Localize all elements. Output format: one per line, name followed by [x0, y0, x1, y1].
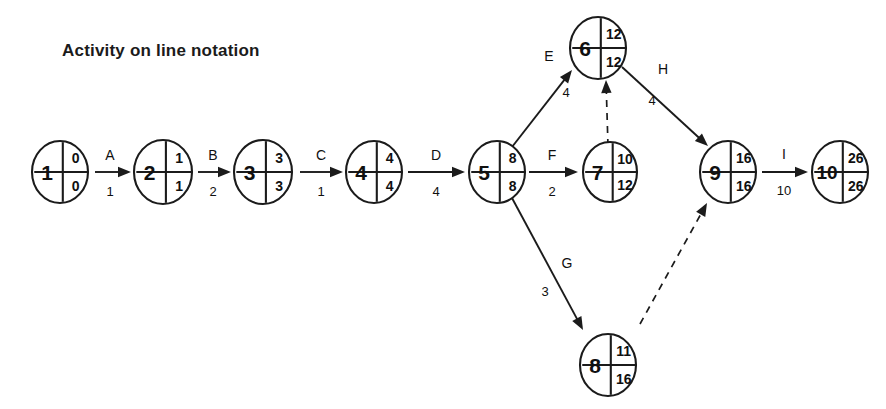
event-node-10[interactable]: 102626: [812, 141, 868, 203]
event-node-7[interactable]: 71012: [583, 142, 637, 202]
arrow-head-icon: [601, 80, 611, 93]
node-latest-event-time: 3: [275, 178, 283, 194]
arrow-head-icon: [795, 167, 808, 177]
event-node-1[interactable]: 100: [32, 141, 88, 203]
activity-arrow-H: H4: [622, 61, 708, 146]
activity-duration: 3: [541, 284, 548, 299]
node-event-number: 1: [41, 161, 53, 184]
activity-duration: 1: [106, 184, 113, 199]
event-node-8[interactable]: 81116: [580, 334, 636, 396]
node-earliest-event-time: 1: [175, 150, 183, 166]
node-latest-event-time: 16: [736, 178, 752, 194]
activity-label: D: [431, 147, 441, 163]
activity-duration: 4: [648, 93, 655, 108]
diagram-canvas: Activity on line notation A1B2C1D4E4F2G3…: [0, 0, 886, 409]
node-latest-event-time: 0: [72, 178, 80, 194]
node-latest-event-time: 16: [616, 371, 632, 387]
node-earliest-event-time: 26: [848, 150, 864, 166]
arrow-head-icon: [330, 167, 343, 177]
activity-arrow-C: C1: [300, 147, 343, 199]
activity-label: A: [105, 147, 115, 163]
dummy-activity-7-6: [601, 80, 611, 146]
arrow-head-icon: [572, 316, 583, 330]
event-node-9[interactable]: 91616: [700, 141, 756, 203]
node-earliest-event-time: 3: [275, 150, 283, 166]
arrow-shaft: [640, 213, 701, 324]
node-event-number: 7: [592, 161, 604, 184]
activity-arrow-B: B2: [198, 147, 231, 199]
node-earliest-event-time: 4: [386, 150, 394, 166]
activity-duration: 4: [562, 85, 569, 100]
arrow-shaft: [622, 67, 700, 138]
node-latest-event-time: 4: [386, 178, 394, 194]
activity-arrow-I: I10: [762, 146, 808, 198]
arrow-shaft: [606, 91, 608, 146]
activity-label: C: [316, 147, 326, 163]
node-earliest-event-time: 8: [509, 150, 517, 166]
node-event-number: 5: [478, 161, 490, 184]
arrow-head-icon: [696, 203, 707, 217]
activity-duration: 10: [777, 183, 791, 198]
activity-arrow-G: G3: [512, 198, 583, 330]
node-event-number: 9: [709, 161, 721, 184]
node-event-number: 4: [355, 161, 367, 184]
node-event-number: 2: [144, 161, 156, 184]
node-earliest-event-time: 12: [606, 26, 622, 42]
arrow-head-icon: [452, 167, 465, 177]
network-diagram: A1B2C1D4E4F2G3H4I10 10021133344458861212…: [0, 0, 886, 409]
node-latest-event-time: 8: [509, 178, 517, 194]
node-latest-event-time: 12: [617, 177, 633, 193]
node-earliest-event-time: 10: [617, 151, 633, 167]
event-node-6[interactable]: 61212: [570, 17, 626, 79]
node-earliest-event-time: 0: [72, 150, 80, 166]
node-event-number: 10: [817, 162, 838, 183]
arrow-head-icon: [218, 167, 231, 177]
event-node-4[interactable]: 444: [346, 141, 402, 203]
event-node-2[interactable]: 211: [134, 140, 192, 204]
arrow-head-icon: [560, 70, 572, 83]
activity-label: I: [782, 146, 786, 162]
nodes-layer: 1002113334445886121271012811169161610262…: [32, 17, 868, 396]
activity-label: E: [544, 48, 553, 64]
dummy-activity-8-9: [640, 203, 707, 324]
arrow-head-icon: [118, 167, 131, 177]
activity-label: H: [658, 61, 668, 77]
event-node-5[interactable]: 588: [469, 141, 525, 203]
activity-arrow-D: D4: [408, 147, 465, 199]
node-latest-event-time: 26: [848, 178, 864, 194]
node-event-number: 3: [244, 161, 256, 184]
node-latest-event-time: 12: [606, 54, 622, 70]
activity-duration: 2: [548, 184, 555, 199]
activity-label: B: [208, 147, 217, 163]
node-event-number: 8: [589, 354, 601, 377]
edges-layer: A1B2C1D4E4F2G3H4I10: [95, 48, 808, 330]
activity-duration: 4: [432, 184, 439, 199]
activity-label: G: [562, 255, 573, 271]
node-latest-event-time: 1: [175, 178, 183, 194]
arrow-head-icon: [565, 167, 578, 177]
activity-duration: 1: [317, 184, 324, 199]
node-earliest-event-time: 11: [616, 343, 631, 359]
node-earliest-event-time: 16: [736, 150, 752, 166]
activity-arrow-F: F2: [529, 147, 578, 199]
activity-arrow-A: A1: [95, 147, 131, 199]
node-event-number: 6: [579, 37, 591, 60]
activity-duration: 2: [209, 184, 216, 199]
event-node-3[interactable]: 333: [234, 140, 292, 204]
activity-label: F: [548, 147, 557, 163]
activity-arrow-E: E4: [512, 48, 572, 147]
arrow-shaft: [512, 79, 565, 147]
